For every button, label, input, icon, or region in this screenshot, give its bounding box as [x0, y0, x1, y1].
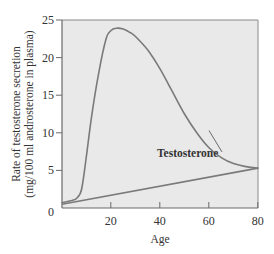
- x-tick-labels: 20 40 60 80: [105, 214, 264, 228]
- y-tick-20: 20: [42, 51, 54, 65]
- x-tick-20: 20: [105, 214, 117, 228]
- y-axis-title: Rate of testosterone secretion (mg/100 m…: [10, 30, 36, 198]
- y-tick-15: 15: [42, 88, 54, 102]
- x-tick-80: 80: [252, 214, 264, 228]
- testosterone-label: Testosterone: [157, 147, 218, 159]
- y-tick-0: 0: [48, 205, 54, 219]
- x-tick-60: 60: [203, 214, 215, 228]
- y-tick-labels: 25 20 15 10 5 0: [42, 13, 54, 219]
- x-tick-40: 40: [154, 214, 166, 228]
- x-axis-title: Age: [150, 233, 169, 246]
- y-tick-5: 5: [48, 163, 54, 177]
- y-tick-10: 10: [42, 126, 54, 140]
- y-ticks: [56, 20, 62, 170]
- testosterone-chart: 25 20 15 10 5 0 20 40 60 80 Age Rate of …: [0, 0, 274, 254]
- y-axis-title-line1: Rate of testosterone secretion: [10, 46, 22, 182]
- y-axis-title-line2: (mg/100 ml androsterone in plasma): [23, 30, 36, 198]
- y-tick-25: 25: [42, 13, 54, 27]
